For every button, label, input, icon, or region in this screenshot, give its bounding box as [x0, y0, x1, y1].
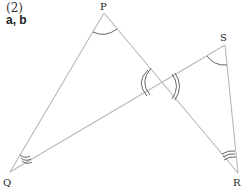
label-P: P	[100, 1, 107, 12]
label-S: S	[220, 32, 227, 43]
segment-PQ	[10, 13, 104, 172]
angle-mark-R	[222, 151, 236, 160]
segment-PR	[104, 13, 238, 173]
angle-mark-S	[207, 56, 227, 65]
segment-QS	[10, 45, 225, 172]
label-R: R	[233, 177, 241, 188]
angle-mark-P	[93, 29, 117, 34]
geometry-figure: P S Q R	[0, 0, 242, 189]
label-Q: Q	[3, 177, 11, 188]
